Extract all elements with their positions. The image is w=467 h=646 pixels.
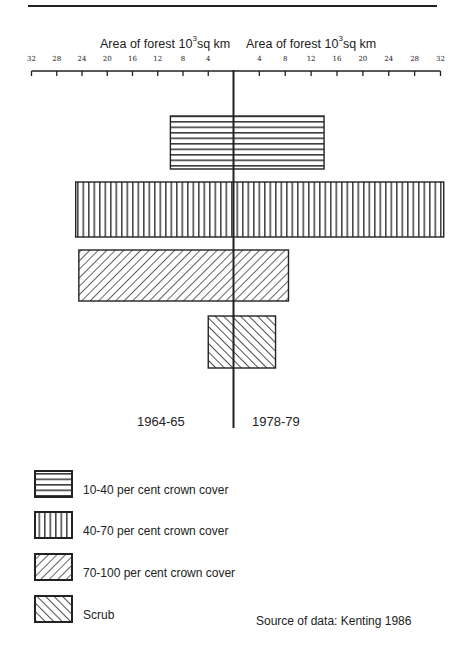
bar-1 [170,116,324,169]
legend-label-40-70: 40-70 per cent crown cover [83,524,228,538]
legend-label-scrub: Scrub [83,608,114,622]
period-label-left: 1964-65 [137,414,185,429]
source-note: Source of data: Kenting 1986 [256,614,411,628]
bar-4 [208,316,275,368]
chart-plot [0,0,467,646]
period-label-right: 1978-79 [252,414,300,429]
legend-swatch-3 [35,554,72,580]
legend-swatch-4 [35,596,72,622]
bars [76,116,444,368]
legend-boxes [35,471,72,622]
x-axis [32,71,441,76]
legend-label-10-40: 10-40 per cent crown cover [83,483,228,497]
bar-2 [76,182,444,237]
legend-label-70-100: 70-100 per cent crown cover [83,566,235,580]
legend-swatch-2 [35,512,72,538]
legend-swatch-1 [35,471,72,497]
bar-3 [79,250,289,301]
